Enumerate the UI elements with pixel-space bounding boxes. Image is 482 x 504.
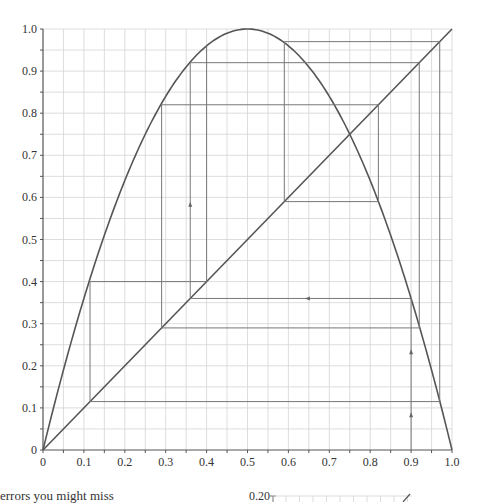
y-tick-label: 0.2	[22, 359, 37, 373]
inset-chart: 0.20	[249, 489, 412, 502]
x-tick-label: 0.1	[76, 455, 91, 469]
x-tick-label: 0.8	[363, 455, 378, 469]
y-tick-label: 0.4	[22, 275, 37, 289]
inset-y-tick-label: 0.20	[249, 489, 270, 502]
x-tick-label: 1.0	[445, 455, 460, 469]
arrow-icon	[188, 202, 192, 207]
y-tick-label: 0.6	[22, 190, 37, 204]
arrow-icon	[305, 296, 310, 300]
caption-text: errors you might miss	[0, 488, 114, 504]
x-tick-label: 0.2	[117, 455, 132, 469]
x-tick-label: 0.4	[199, 455, 214, 469]
x-tick-label: 0.3	[158, 455, 173, 469]
y-tick-label: 0.1	[22, 401, 37, 415]
arrow-icon	[409, 412, 413, 417]
y-tick-label: 0.8	[22, 106, 37, 120]
cobweb-path	[90, 42, 440, 450]
y-tick-label: 0.3	[22, 317, 37, 331]
y-tick-label: 0.7	[22, 148, 37, 162]
arrow-icon	[409, 349, 413, 354]
x-tick-label: 0.6	[281, 455, 296, 469]
x-tick-label: 0	[40, 455, 46, 469]
y-tick-label: 0.9	[22, 64, 37, 78]
y-tick-label: 0	[31, 443, 37, 457]
y-tick-label: 0.5	[22, 233, 37, 247]
x-tick-label: 0.5	[240, 455, 255, 469]
x-tick-label: 0.9	[404, 455, 419, 469]
inset-diagonal	[403, 494, 410, 502]
x-tick-label: 0.7	[322, 455, 337, 469]
y-tick-label: 1.0	[22, 22, 37, 36]
